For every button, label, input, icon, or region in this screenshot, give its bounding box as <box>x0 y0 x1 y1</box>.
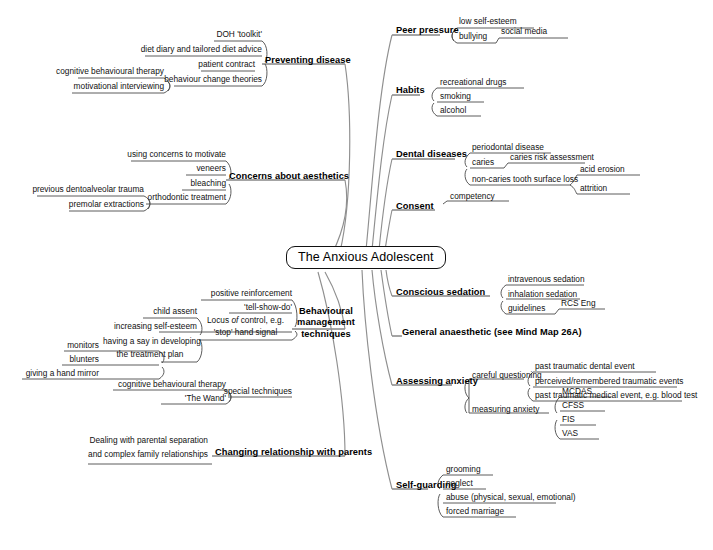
leaf-cognitive-behavioural-therapy-2[interactable]: cognitive behavioural therapy <box>102 380 226 389</box>
leaf-motivational-interviewing[interactable]: motivational interviewing <box>40 82 164 91</box>
leaf-forced-marriage[interactable]: forced marriage <box>446 507 504 516</box>
leaf-premolar-extractions[interactable]: premolar extractions <box>20 200 144 209</box>
root-node[interactable]: The Anxious Adolescent <box>286 246 446 269</box>
branch-dental-diseases[interactable]: Dental diseases <box>396 150 467 160</box>
branch-general-anaesthetic[interactable]: General anaesthetic (see Mind Map 26A) <box>402 328 582 338</box>
mind-map-canvas: The Anxious Adolescent Preventing diseas… <box>0 0 713 550</box>
leaf-recreational-drugs[interactable]: recreational drugs <box>440 78 506 87</box>
leaf-attrition[interactable]: attrition <box>580 184 607 193</box>
leaf-rcs-eng[interactable]: RCS Eng <box>561 299 596 308</box>
branch-peer-pressure[interactable]: Peer pressure <box>396 26 459 36</box>
leaf-positive-reinforcement[interactable]: positive reinforcement <box>175 289 292 298</box>
leaf-past-traumatic-medical-event[interactable]: past traumatic medical event, e.g. blood… <box>535 391 697 400</box>
leaf-diet-diary[interactable]: diet diary and tailored diet advice <box>120 45 262 54</box>
branch-consent[interactable]: Consent <box>396 202 434 212</box>
leaf-doh-toolkit[interactable]: DOH 'toolkit' <box>120 30 262 39</box>
leaf-periodontal-disease[interactable]: periodontal disease <box>472 143 544 152</box>
leaf-monitors[interactable]: monitors <box>36 341 99 350</box>
locus-text-c: control, e.g. <box>241 315 284 325</box>
leaf-the-wand[interactable]: 'The Wand' <box>102 394 226 403</box>
leaf-dealing-parental-separation-line-2[interactable]: and complex family relationships <box>80 450 208 459</box>
branch-changing-relationship-with-parents[interactable]: Changing relationship with parents <box>215 448 372 458</box>
leaf-cognitive-behavioural-therapy-1[interactable]: cognitive behavioural therapy <box>40 67 164 76</box>
leaf-measuring-anxiety[interactable]: measuring anxiety <box>472 405 539 414</box>
branch-assessing-anxiety[interactable]: Assessing anxiety <box>396 377 478 387</box>
leaf-having-a-say-line-2[interactable]: the treatment plan <box>103 350 197 359</box>
branch-behavioural-management-techniques[interactable]: Behavioural management techniques <box>296 306 356 340</box>
bmt-label-line-3: techniques <box>296 329 356 340</box>
leaf-grooming[interactable]: grooming <box>446 465 481 474</box>
leaf-veneers[interactable]: veneers <box>105 164 226 173</box>
leaf-using-concerns-to-motivate[interactable]: using concerns to motivate <box>105 150 226 159</box>
leaf-competency[interactable]: competency <box>450 192 495 201</box>
leaf-bullying[interactable]: bullying <box>459 32 487 41</box>
leaf-fis[interactable]: FIS <box>562 415 575 424</box>
leaf-mcdas[interactable]: MCDAS <box>562 387 592 396</box>
leaf-caries[interactable]: caries <box>472 158 494 167</box>
leaf-acid-erosion[interactable]: acid erosion <box>580 165 625 174</box>
leaf-perceived-remembered-traumatic-events[interactable]: perceived/remembered traumatic events <box>535 377 684 386</box>
leaf-caries-risk-assessment[interactable]: caries risk assessment <box>510 153 594 162</box>
leaf-previous-dentoalveolar-trauma[interactable]: previous dentoalveolar trauma <box>20 185 144 194</box>
branch-conscious-sedation[interactable]: Conscious sedation <box>396 288 485 298</box>
leaf-cfss[interactable]: CFSS <box>562 401 584 410</box>
leaf-stop-hand-signal[interactable]: 'stop' hand signal <box>199 328 292 337</box>
bmt-label-line-2: management <box>296 317 356 328</box>
leaf-abuse[interactable]: abuse (physical, sexual, emotional) <box>446 493 576 502</box>
leaf-intravenous-sedation[interactable]: intravenous sedation <box>508 275 585 284</box>
leaf-smoking[interactable]: smoking <box>440 92 471 101</box>
leaf-low-self-esteem[interactable]: low self-esteem <box>459 17 517 26</box>
bmt-label-line-1: Behavioural <box>296 306 356 317</box>
leaf-guidelines[interactable]: guidelines <box>508 304 545 313</box>
branch-habits[interactable]: Habits <box>396 86 425 96</box>
leaf-non-caries-tooth-surface-loss[interactable]: non-caries tooth surface loss <box>472 175 578 184</box>
leaf-vas[interactable]: VAS <box>562 429 578 438</box>
leaf-giving-a-hand-mirror[interactable]: giving a hand mirror <box>2 369 99 378</box>
leaf-neglect[interactable]: neglect <box>446 479 473 488</box>
locus-text-italic-of: of <box>231 315 238 325</box>
leaf-careful-questioning[interactable]: careful questioning <box>472 371 542 380</box>
leaf-blunters[interactable]: blunters <box>36 355 99 364</box>
leaf-dealing-parental-separation-line-1[interactable]: Dealing with parental separation <box>80 436 208 445</box>
leaf-past-traumatic-dental-event[interactable]: past traumatic dental event <box>535 362 635 371</box>
branch-concerns-about-aesthetics[interactable]: Concerns about aesthetics <box>229 172 349 182</box>
leaf-increasing-self-esteem[interactable]: increasing self-esteem <box>100 322 197 331</box>
branch-preventing-disease[interactable]: Preventing disease <box>265 56 351 66</box>
locus-text-a: Locus <box>207 315 229 325</box>
leaf-alcohol[interactable]: alcohol <box>440 106 466 115</box>
leaf-social-media[interactable]: social media <box>501 27 547 36</box>
leaf-child-assent[interactable]: child assent <box>100 307 197 316</box>
leaf-having-a-say-line-1[interactable]: having a say in developing <box>103 337 197 346</box>
leaf-locus-of-control[interactable]: Locus of control, e.g. <box>199 316 292 325</box>
